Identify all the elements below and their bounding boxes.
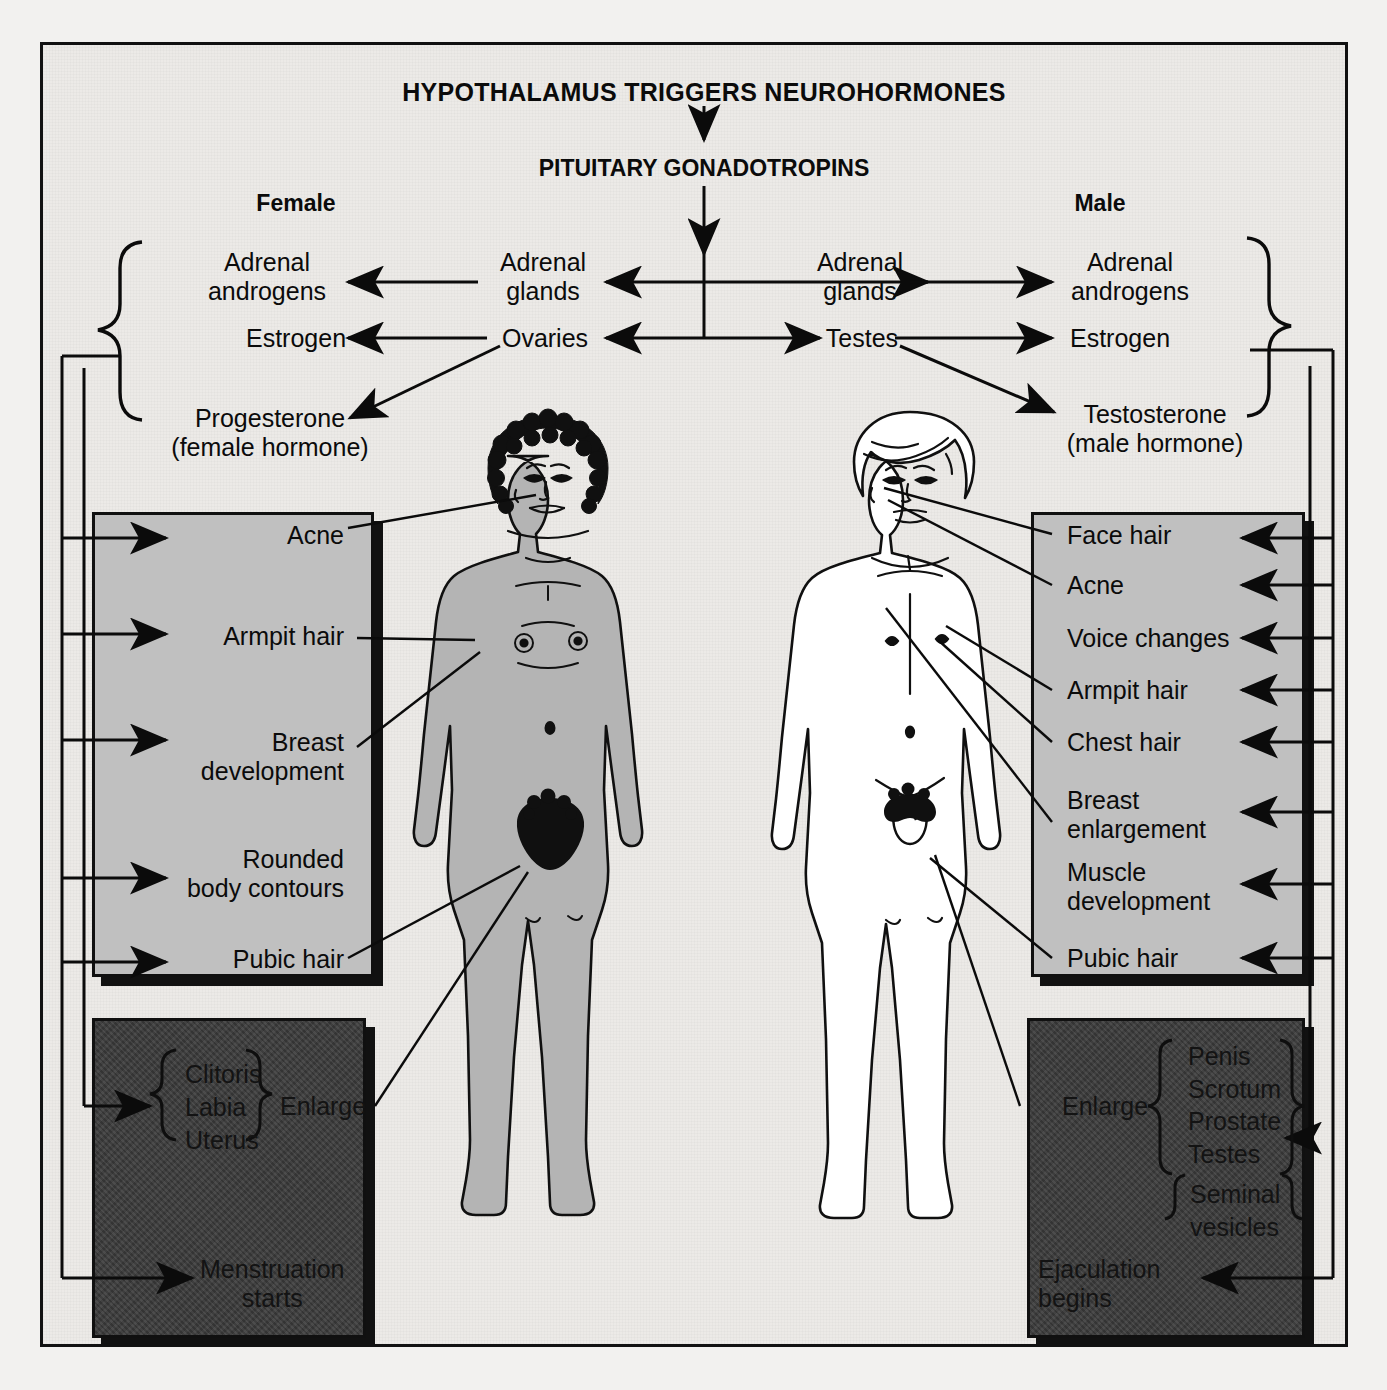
male-heading: Male <box>1074 190 1125 217</box>
male-organ-action: Enlarge <box>1062 1092 1148 1121</box>
menstruation-label: Menstruation starts <box>200 1255 345 1313</box>
page-title: HYPOTHALAMUS TRIGGERS NEUROHORMONES <box>402 78 1006 107</box>
male-trait-voice-changes: Voice changes <box>1067 624 1230 653</box>
female-trait-armpit-hair: Armpit hair <box>223 622 344 651</box>
male-adolescent-figure <box>760 398 1060 1348</box>
male-trait-face-hair: Face hair <box>1067 521 1171 550</box>
subtitle: PITUITARY GONADOTROPINS <box>539 155 870 182</box>
female-trait-acne: Acne <box>287 521 344 550</box>
diagram-canvas: HYPOTHALAMUS TRIGGERS NEUROHORMONES PITU… <box>0 0 1387 1390</box>
female-trait-pubic-hair: Pubic hair <box>233 945 344 974</box>
male-trait-breast-enlargement: Breast enlargement <box>1067 786 1206 844</box>
female-organ-action: Enlarge <box>280 1092 366 1121</box>
ejaculation-label: Ejaculation begins <box>1038 1255 1160 1313</box>
male-organ-primary-list: Penis Scrotum Prostate Testes <box>1188 1040 1281 1170</box>
ovaries-label: Ovaries <box>502 324 588 353</box>
male-trait-chest-hair: Chest hair <box>1067 728 1181 757</box>
male-estrogen-label: Estrogen <box>1070 324 1170 353</box>
male-trait-armpit-hair: Armpit hair <box>1067 676 1188 705</box>
male-trait-pubic-hair: Pubic hair <box>1067 944 1178 973</box>
female-adolescent-figure <box>398 398 698 1348</box>
testosterone-label: Testosterone (male hormone) <box>1067 400 1243 458</box>
male-adrenal-glands-label: Adrenal glands <box>817 248 903 306</box>
female-trait-rounded-body-contours: Rounded body contours <box>187 845 344 903</box>
progesterone-label: Progesterone (female hormone) <box>171 404 368 462</box>
male-organ-secondary-list: Seminal vesicles <box>1190 1178 1280 1243</box>
female-adrenal-androgens-label: Adrenal androgens <box>208 248 326 306</box>
female-trait-breast-development: Breast development <box>201 728 344 786</box>
male-adrenal-androgens-label: Adrenal androgens <box>1071 248 1189 306</box>
female-heading: Female <box>256 190 335 217</box>
testes-label: Testes <box>826 324 898 353</box>
female-organ-list: Clitoris Labia Uterus <box>185 1058 261 1157</box>
female-adrenal-glands-label: Adrenal glands <box>500 248 586 306</box>
female-estrogen-label: Estrogen <box>246 324 346 353</box>
male-trait-muscle-development: Muscle development <box>1067 858 1210 916</box>
male-trait-acne: Acne <box>1067 571 1124 600</box>
